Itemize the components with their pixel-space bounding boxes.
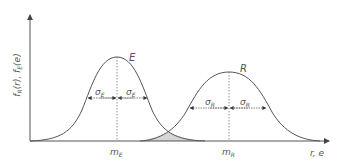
sigma-R-left-label: σR xyxy=(205,97,215,108)
sigma-R-right-label: σR xyxy=(240,97,250,108)
mean-R-label: mR xyxy=(222,147,235,158)
curve-R-label: R xyxy=(240,63,247,74)
x-axis-label: r, e xyxy=(310,148,325,158)
reliability-diagram: E R σE σE σR σR mE mR r, e fR(r), fE(e) xyxy=(0,0,341,166)
curve-E xyxy=(30,57,205,141)
sigma-E-right-label: σE xyxy=(126,87,136,98)
y-axis-label: fR(r), fE(e) xyxy=(12,53,23,96)
mean-E-label: mE xyxy=(110,147,123,158)
curve-E-label: E xyxy=(129,52,136,63)
sigma-E-left-label: σE xyxy=(95,87,105,98)
